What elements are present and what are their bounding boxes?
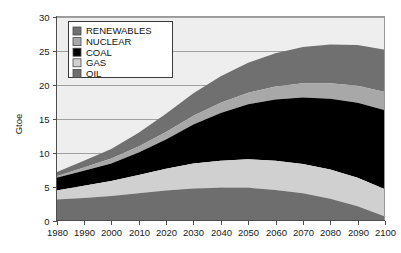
chart-figure: 302520151050 198019902000201020202030204… (0, 0, 401, 253)
x-tick-label: 2100 (375, 227, 396, 238)
y-axis-title: Gtoe (13, 114, 24, 135)
y-tick-label: 20 (39, 80, 50, 91)
legend-label-nuclear: NUCLEAR (86, 36, 132, 47)
legend-label-gas: GAS (86, 57, 106, 68)
x-tick-label: 1980 (47, 227, 68, 238)
legend-swatch-nuclear (73, 38, 81, 46)
x-tick-label: 2040 (211, 227, 232, 238)
x-tick-label: 2090 (348, 227, 369, 238)
y-tick-label: 30 (39, 12, 50, 23)
x-tick-label: 2080 (320, 227, 341, 238)
chart-legend: RENEWABLESNUCLEARCOALGASOIL (69, 22, 173, 79)
x-axis-ticks: 1980199020002010202020302040205020602070… (47, 221, 396, 238)
x-tick-label: 2070 (293, 227, 314, 238)
y-tick-label: 25 (39, 46, 50, 57)
y-axis-ticks: 302520151050 (39, 12, 57, 227)
legend-label-oil: OIL (86, 68, 101, 79)
x-tick-label: 2060 (266, 227, 287, 238)
x-tick-label: 2020 (156, 227, 177, 238)
x-tick-label: 2050 (238, 227, 259, 238)
x-tick-label: 2010 (129, 227, 150, 238)
x-tick-label: 2030 (183, 227, 204, 238)
legend-label-renewables: RENEWABLES (86, 25, 152, 36)
legend-swatch-oil (73, 69, 81, 77)
legend-swatch-gas (73, 59, 81, 67)
legend-swatch-renewables (73, 27, 81, 35)
legend-swatch-coal (73, 48, 81, 56)
y-tick-label: 0 (44, 216, 49, 227)
y-tick-label: 15 (39, 114, 50, 125)
y-tick-label: 10 (39, 148, 50, 159)
legend-label-coal: COAL (86, 47, 112, 58)
stacked-area-chart: 302520151050 198019902000201020202030204… (0, 0, 401, 253)
y-tick-label: 5 (44, 182, 49, 193)
x-tick-label: 2000 (101, 227, 122, 238)
x-tick-label: 1990 (74, 227, 95, 238)
